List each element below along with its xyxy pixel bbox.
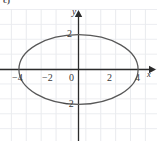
ellipse-plot: [0, 0, 157, 141]
y-tick-label-2: 2: [67, 29, 72, 39]
origin-label: 0: [69, 73, 74, 83]
x-axis-label: x: [147, 70, 151, 80]
x-tick-label-2: 2: [107, 73, 112, 83]
y-axis-label: y: [72, 8, 76, 18]
y-tick-label--2: −2: [63, 99, 74, 109]
x-tick-label-4: 4: [135, 73, 140, 83]
x-tick-label--4: −4: [12, 73, 23, 83]
x-tick-label--2: −2: [42, 73, 53, 83]
graph-figure: c) y x −4 −2 2 4 0 2 −2: [0, 0, 157, 141]
